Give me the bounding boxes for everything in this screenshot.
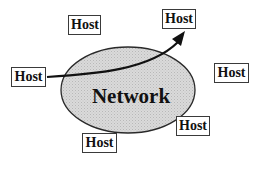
host-right: Host bbox=[214, 63, 249, 83]
network-label: Network bbox=[88, 84, 174, 109]
host-top-left: Host bbox=[68, 15, 101, 35]
network-diagram: Network Host Host Host Host Host Host bbox=[0, 0, 256, 175]
host-left: Host bbox=[11, 67, 46, 87]
host-bottom-left: Host bbox=[82, 133, 117, 153]
arrowhead-icon bbox=[172, 31, 185, 46]
host-bottom-right: Host bbox=[176, 116, 210, 136]
host-top-right: Host bbox=[162, 9, 196, 29]
